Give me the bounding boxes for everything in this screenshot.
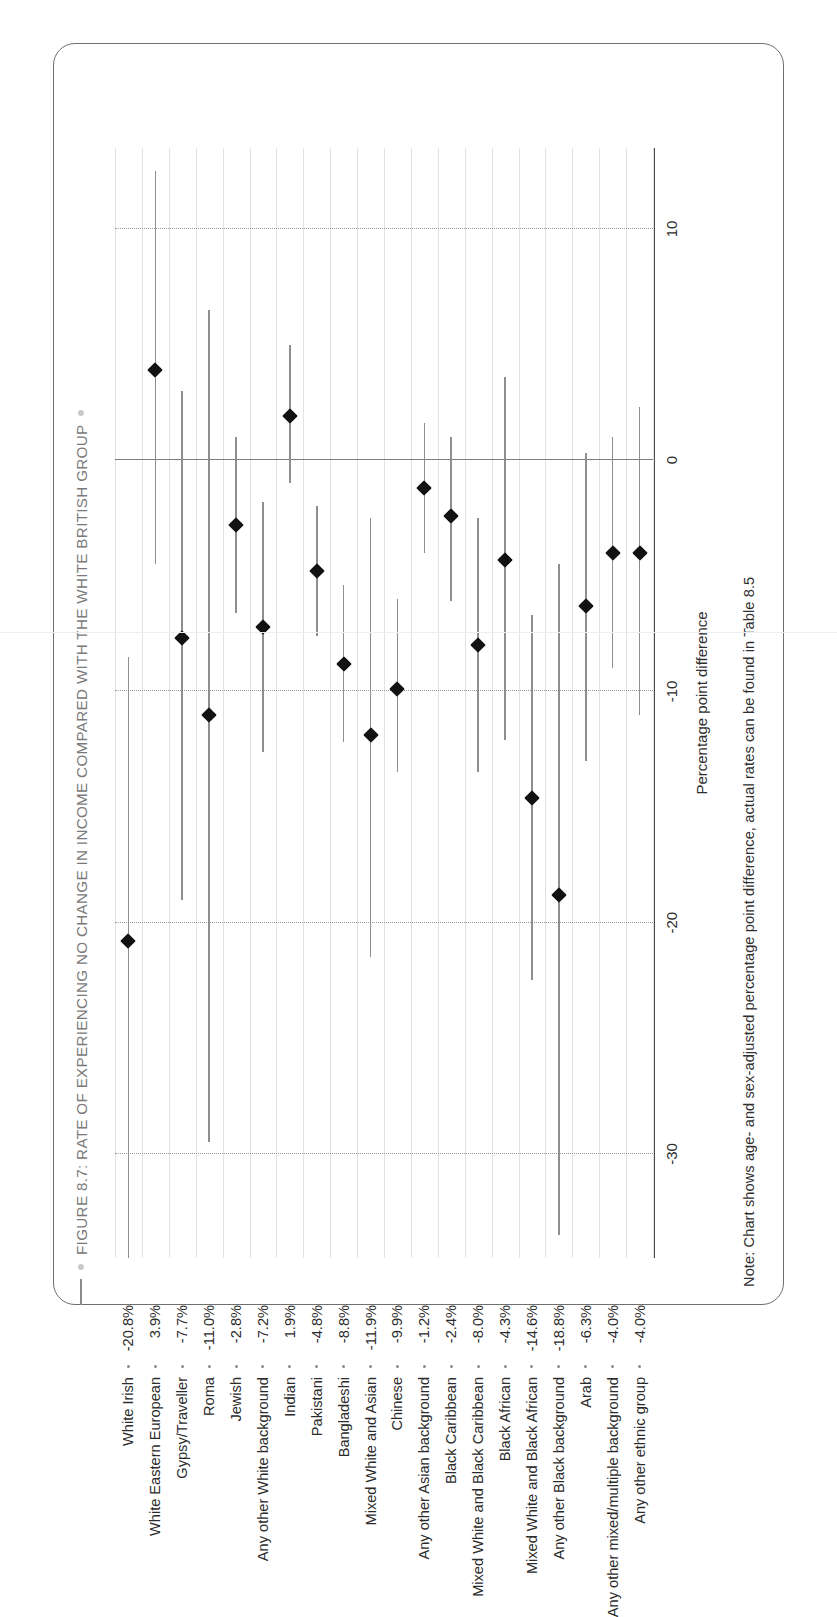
leader-dot-icon [342,1365,345,1368]
category-label-row: Indian1.9% [281,1305,299,1417]
category-value: -2.8% [228,1305,244,1357]
confidence-interval-bar [208,310,210,1143]
category-name: Mixed White and Black Caribbean [470,1377,486,1597]
figure-note: Note: Chart shows age- and sex-adjusted … [741,47,757,1287]
category-value: -20.8% [120,1305,136,1357]
category-gridline [653,148,654,1258]
category-gridline [411,148,412,1258]
category-name: Any other Black background [551,1377,567,1560]
category-name: White Irish [120,1377,136,1446]
category-value: -6.3% [578,1305,594,1357]
category-name: Black Caribbean [443,1377,459,1484]
x-axis-tick-label: 10 [663,221,680,238]
chart-plot-area: -30-20-10010Percentage point difference [115,148,653,1258]
category-name: Any other White background [255,1377,271,1561]
category-gridline [545,148,546,1258]
category-label-row: Any other mixed/multiple background-4.0% [604,1305,622,1617]
leader-dot-icon [235,1365,238,1368]
leader-dot-icon [450,1365,453,1368]
category-gridline [492,148,493,1258]
category-gridline [626,148,627,1258]
data-point-marker[interactable] [605,545,621,561]
category-label-row: Black Caribbean-2.4% [442,1305,460,1484]
data-point-marker[interactable] [255,619,271,635]
data-point-marker[interactable] [309,563,325,579]
x-axis-tick-label: 0 [663,456,680,464]
data-point-marker[interactable] [551,887,567,903]
category-gridline [169,148,170,1258]
category-gridline [572,148,573,1258]
category-name: Pakistani [309,1377,325,1436]
data-point-marker[interactable] [174,630,190,646]
category-name: Any other ethnic group [632,1377,648,1524]
category-value: -11.0% [201,1305,217,1357]
leader-dot-icon [369,1365,372,1368]
category-label-row: Bangladeshi-8.8% [335,1305,353,1457]
data-point-marker[interactable] [282,408,298,424]
data-point-marker[interactable] [443,508,459,524]
data-point-marker[interactable] [148,362,164,378]
category-label-row: White Irish-20.8% [119,1305,137,1446]
title-bullet-end-icon [78,410,84,416]
data-point-marker[interactable] [578,598,594,614]
data-point-marker[interactable] [228,517,244,533]
leader-dot-icon [396,1365,399,1368]
x-axis-tick-label: -10 [663,681,680,703]
leader-dot-icon [530,1365,533,1368]
category-label-row: Mixed White and Black African-14.6% [523,1305,541,1574]
category-label-row: Mixed White and Black Caribbean-8.0% [469,1305,487,1597]
category-label-row: Mixed White and Asian-11.9% [362,1305,380,1525]
leader-dot-icon [288,1365,291,1368]
category-name: White Eastern European [147,1377,163,1536]
category-label-row: Arab-6.3% [577,1305,595,1408]
category-name: Mixed White and Black African [524,1377,540,1574]
category-label-row: Any other White background-7.2% [254,1305,272,1561]
x-axis-tick-label: -30 [663,1143,680,1165]
leader-dot-icon [638,1365,641,1368]
figure-stage: FIGURE 8.7: RATE OF EXPERIENCING NO CHAN… [53,43,784,1305]
leader-dot-icon [181,1365,184,1368]
x-axis-title: Percentage point difference [693,148,710,1258]
x-axis-tick-label: -20 [663,912,680,934]
data-point-marker[interactable] [390,681,406,697]
category-value: -9.9% [389,1305,405,1357]
category-name: Gypsy/Traveller [174,1377,190,1479]
data-point-marker[interactable] [524,790,540,806]
category-value: -7.2% [255,1305,271,1357]
category-value: -14.6% [524,1305,540,1357]
leader-dot-icon [504,1365,507,1368]
leader-dot-icon [127,1365,130,1368]
category-name: Black African [497,1377,513,1461]
data-point-marker[interactable] [201,707,217,723]
confidence-interval-bar [128,657,130,1258]
category-label-row: Black African-4.3% [496,1305,514,1461]
leader-dot-icon [611,1365,614,1368]
page-title: FIGURE 8.7: RATE OF EXPERIENCING NO CHAN… [73,425,90,1255]
category-value: -2.4% [443,1305,459,1357]
category-name: Any other Asian background [416,1377,432,1560]
category-name: Chinese [389,1377,405,1431]
category-value: -18.8% [551,1305,567,1357]
data-point-marker[interactable] [632,545,648,561]
category-gridline [196,148,197,1258]
category-value: -4.0% [605,1305,621,1357]
leader-dot-icon [208,1365,211,1368]
data-point-marker[interactable] [363,728,379,744]
data-point-marker[interactable] [497,552,513,568]
category-gridline [115,148,116,1258]
data-point-marker[interactable] [336,656,352,672]
figure-title-row: FIGURE 8.7: RATE OF EXPERIENCING NO CHAN… [63,43,99,1305]
category-name: Roma [201,1377,217,1416]
data-point-marker[interactable] [417,480,433,496]
leader-dot-icon [154,1365,157,1368]
category-value: -4.3% [497,1305,513,1357]
category-label-row: Any other Black background-18.8% [550,1305,568,1560]
category-value: -4.8% [309,1305,325,1357]
category-value: -8.8% [336,1305,352,1357]
data-point-marker[interactable] [121,933,137,949]
title-rule [80,1279,81,1305]
data-point-marker[interactable] [470,637,486,653]
category-value: -7.7% [174,1305,190,1357]
category-label-row: Jewish-2.8% [227,1305,245,1422]
category-name: Any other mixed/multiple background [605,1377,621,1617]
